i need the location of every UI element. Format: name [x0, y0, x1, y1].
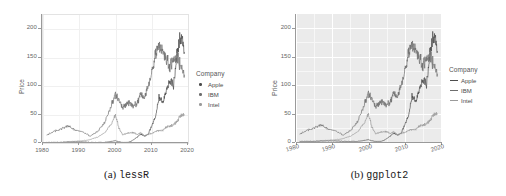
grid-line-y: [43, 143, 188, 144]
caption-prefix: (b): [351, 168, 364, 180]
legend-ggplot2: Company AppleIBMIntel: [449, 66, 478, 106]
legend-title: Company: [196, 70, 225, 77]
y-tick: [292, 142, 295, 143]
x-tick-label: 2020: [179, 147, 195, 153]
y-tick-label: 100: [18, 81, 37, 87]
caption-lessr: (a) lessR: [0, 168, 253, 181]
y-axis-line: [295, 14, 296, 142]
x-tick-label: 1990: [321, 143, 336, 153]
legend-dot-key-icon: [196, 93, 205, 95]
series-line-intel: [300, 112, 438, 142]
series-line-intel: [47, 113, 185, 143]
y-tick: [292, 28, 295, 29]
plot-area-ggplot2: [296, 14, 441, 142]
x-tick: [151, 142, 152, 145]
panel-ggplot2: Price 19801990200020102020050100150200 C…: [253, 0, 506, 196]
legend-item-label: Intel: [208, 102, 219, 108]
series-line-ibm: [300, 41, 438, 135]
x-tick-label: 2010: [143, 147, 159, 153]
figure-two-panel-stock-charts: Price 19801990200020102020050100150200 C…: [0, 0, 506, 196]
y-tick-label: 50: [18, 110, 37, 116]
legend-item-label: IBM: [208, 92, 219, 98]
legend-item-apple[interactable]: Apple: [449, 76, 478, 85]
x-tick-label: 1980: [285, 143, 300, 153]
legend-line-key-icon: [449, 80, 458, 81]
series-group: [296, 14, 441, 142]
y-tick: [292, 57, 295, 58]
series-line-ibm: [47, 42, 185, 136]
caption-name: lessR: [119, 170, 149, 181]
y-tick-label: 200: [18, 24, 37, 30]
y-tick-label: 50: [272, 110, 291, 116]
y-tick-label: 0: [18, 138, 37, 144]
legend-item-label: Intel: [461, 98, 472, 104]
y-tick-label: 0: [272, 138, 291, 144]
x-tick: [187, 142, 188, 145]
legend-title: Company: [449, 66, 478, 73]
x-tick-label: 2010: [394, 143, 409, 153]
y-tick: [292, 114, 295, 115]
y-tick-label: 150: [18, 53, 37, 59]
x-tick-label: 1990: [70, 147, 86, 153]
grid-line-x: [188, 15, 189, 143]
y-tick-label: 200: [272, 24, 291, 30]
series-group: [43, 15, 188, 143]
legend-item-label: Apple: [208, 82, 223, 88]
legend-lessr: Company AppleIBMIntel: [196, 70, 225, 110]
caption-prefix: (a): [104, 168, 116, 180]
y-tick: [38, 114, 41, 115]
x-tick-label: 1980: [34, 147, 50, 153]
y-tick-label: 150: [272, 53, 291, 59]
panel-lessr: Price 19801990200020102020050100150200 C…: [0, 0, 253, 196]
x-tick-label: 2020: [430, 143, 445, 153]
legend-item-ibm[interactable]: IBM: [196, 90, 225, 99]
legend-dot-key-icon: [196, 103, 205, 105]
legend-dot-key-icon: [196, 83, 205, 85]
legend-item-ibm[interactable]: IBM: [449, 86, 478, 95]
x-tick: [78, 142, 79, 145]
legend-item-apple[interactable]: Apple: [196, 80, 225, 89]
y-axis-line: [41, 14, 42, 142]
x-tick-label: 2000: [107, 147, 123, 153]
legend-item-intel[interactable]: Intel: [449, 96, 478, 105]
y-tick: [38, 142, 41, 143]
legend-line-key-icon: [449, 90, 458, 91]
y-tick: [292, 85, 295, 86]
x-tick: [115, 142, 116, 145]
caption-ggplot2: (b) ggplot2: [253, 168, 506, 181]
legend-item-intel[interactable]: Intel: [196, 100, 225, 109]
y-tick: [38, 85, 41, 86]
x-tick: [42, 142, 43, 145]
plot-area-lessr: [42, 14, 189, 144]
legend-item-label: Apple: [461, 78, 476, 84]
y-tick: [38, 57, 41, 58]
caption-name: ggplot2: [366, 170, 408, 181]
x-tick-label: 2000: [358, 143, 373, 153]
y-tick: [38, 28, 41, 29]
legend-line-key-icon: [449, 100, 458, 101]
legend-item-label: IBM: [461, 88, 472, 94]
y-tick-label: 100: [272, 81, 291, 87]
